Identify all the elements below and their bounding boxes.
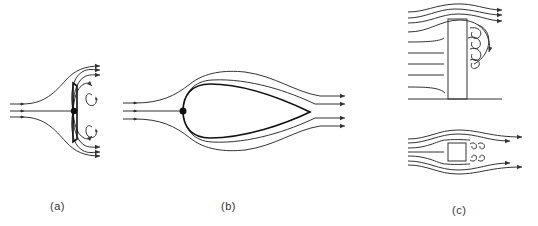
stagnation-point-a	[71, 108, 77, 114]
panel-label-a: (a)	[50, 200, 65, 212]
vortex-lower	[86, 126, 96, 138]
stagnation-point-b	[180, 108, 187, 115]
square-body	[448, 143, 466, 161]
teardrop-body	[183, 84, 310, 138]
panel-label-b: (b)	[221, 200, 236, 212]
panel-a-flat-plate	[10, 66, 100, 156]
panel-c-square-cylinder	[408, 130, 522, 174]
panel-b-streamlined-body	[123, 71, 345, 150]
panel-label-c: (c)	[452, 204, 466, 216]
panel-c-tall-building	[408, 4, 502, 99]
flow-diagram	[0, 0, 538, 226]
vortex-upper	[86, 94, 96, 106]
tall-body	[448, 19, 467, 99]
